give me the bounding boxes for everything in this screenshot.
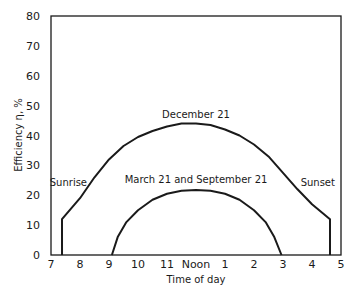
x-tick-label: 5 bbox=[338, 258, 345, 271]
x-tick-label: 11 bbox=[160, 258, 174, 271]
y-tick-label: 50 bbox=[26, 100, 40, 113]
y-axis-label: Efficiency η, % bbox=[13, 98, 24, 172]
y-tick-label: 60 bbox=[26, 70, 40, 83]
y-tick-label: 40 bbox=[26, 130, 40, 143]
y-axis-ticks: 01020304050607080 bbox=[26, 10, 40, 262]
y-tick-label: 80 bbox=[26, 10, 40, 23]
y-tick-label: 30 bbox=[26, 159, 40, 172]
y-tick-label: 70 bbox=[26, 40, 40, 53]
x-tick-label: 8 bbox=[77, 258, 84, 271]
x-tick-label: 1 bbox=[222, 258, 229, 271]
x-tick-label: 7 bbox=[48, 258, 55, 271]
annotation-sunrise: Sunrise bbox=[50, 177, 87, 188]
x-axis-ticks: 7891011Noon12345 bbox=[48, 258, 345, 271]
annotation-equinox: March 21 and September 21 bbox=[125, 174, 268, 185]
x-tick-label: 4 bbox=[309, 258, 316, 271]
x-tick-label: 9 bbox=[106, 258, 113, 271]
y-tick-label: 20 bbox=[26, 189, 40, 202]
x-tick-label: Noon bbox=[182, 258, 211, 271]
x-tick-label: 2 bbox=[251, 258, 258, 271]
x-tick-label: 3 bbox=[280, 258, 287, 271]
y-tick-label: 10 bbox=[26, 219, 40, 232]
annotation-december: December 21 bbox=[162, 109, 230, 120]
plot-frame bbox=[51, 16, 341, 255]
x-tick-label: 10 bbox=[131, 258, 145, 271]
series-lines bbox=[62, 124, 330, 256]
y-tick-label: 0 bbox=[33, 249, 40, 262]
x-axis-label: Time of day bbox=[166, 274, 226, 285]
annotation-sunset: Sunset bbox=[301, 177, 335, 188]
equinox-curve bbox=[112, 190, 282, 255]
efficiency-chart: 01020304050607080 7891011Noon12345 Time … bbox=[0, 0, 356, 297]
